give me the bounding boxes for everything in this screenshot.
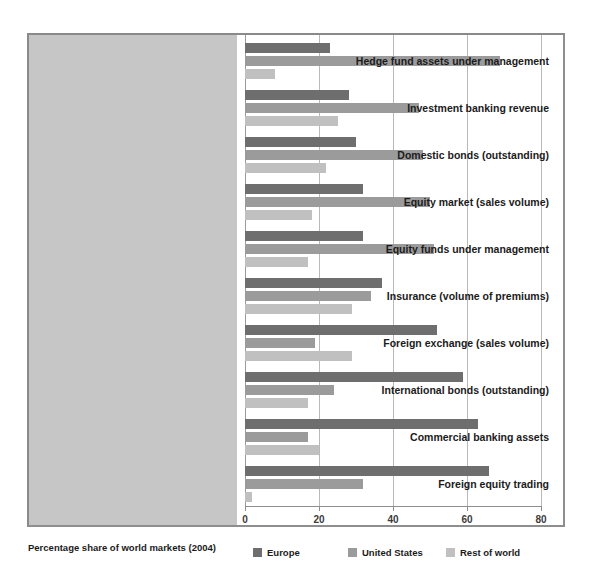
bar-europe: [245, 184, 363, 194]
legend-swatch-europe: [253, 548, 262, 557]
legend-entry-rest-of-world[interactable]: Rest of world: [446, 547, 520, 558]
chart-legend: Percentage share of world markets (2004)…: [28, 540, 226, 554]
bar-rest-of-world: [245, 116, 338, 126]
legend-label-rest-of-world: Rest of world: [460, 547, 520, 558]
category-label: Foreign equity trading: [349, 478, 549, 490]
bar-rest-of-world: [245, 304, 352, 314]
x-tick-60: [467, 506, 468, 511]
bar-europe: [245, 231, 363, 241]
x-tick-80: [541, 506, 542, 511]
bar-europe: [245, 90, 349, 100]
bar-rest-of-world: [245, 163, 326, 173]
bar-europe: [245, 137, 356, 147]
category-label-panel: [29, 35, 237, 525]
bar-rest-of-world: [245, 398, 308, 408]
x-tick-label-60: 60: [461, 514, 472, 525]
category-label: Investment banking revenue: [349, 102, 549, 114]
x-tick-label-80: 80: [535, 514, 546, 525]
category-label: Equity funds under management: [349, 243, 549, 255]
x-tick-40: [393, 506, 394, 511]
bar-united-states: [245, 432, 308, 442]
bar-europe: [245, 419, 478, 429]
category-label: Hedge fund assets under management: [349, 55, 549, 67]
x-tick-label-40: 40: [387, 514, 398, 525]
bar-europe: [245, 43, 330, 53]
bar-rest-of-world: [245, 351, 352, 361]
chart-figure: 020406080 Hedge fund assets under manage…: [0, 0, 594, 573]
legend-swatch-united-states: [348, 548, 357, 557]
x-tick-label-20: 20: [313, 514, 324, 525]
x-tick-20: [319, 506, 320, 511]
bar-europe: [245, 278, 382, 288]
bar-europe: [245, 466, 489, 476]
bar-europe: [245, 325, 437, 335]
category-label: Foreign exchange (sales volume): [349, 337, 549, 349]
bar-rest-of-world: [245, 492, 252, 502]
bar-united-states: [245, 338, 315, 348]
legend-swatch-rest-of-world: [446, 548, 455, 557]
legend-entry-europe[interactable]: Europe: [253, 547, 300, 558]
category-label: International bonds (outstanding): [349, 384, 549, 396]
legend-entry-united-states[interactable]: United States: [348, 547, 423, 558]
bar-rest-of-world: [245, 69, 275, 79]
legend-label-united-states: United States: [362, 547, 423, 558]
category-label: Insurance (volume of premiums): [349, 290, 549, 302]
legend-title: Percentage share of world markets (2004): [28, 542, 216, 553]
bar-rest-of-world: [245, 210, 312, 220]
bar-united-states: [245, 479, 363, 489]
category-label: Commercial banking assets: [349, 431, 549, 443]
bar-rest-of-world: [245, 257, 308, 267]
bar-europe: [245, 372, 463, 382]
legend-label-europe: Europe: [267, 547, 300, 558]
bar-united-states: [245, 385, 334, 395]
chart-plot-frame: 020406080 Hedge fund assets under manage…: [27, 33, 565, 527]
x-tick-0: [245, 506, 246, 511]
category-label: Domestic bonds (outstanding): [349, 149, 549, 161]
bar-rest-of-world: [245, 445, 319, 455]
category-label: Equity market (sales volume): [349, 196, 549, 208]
x-tick-label-0: 0: [242, 514, 248, 525]
